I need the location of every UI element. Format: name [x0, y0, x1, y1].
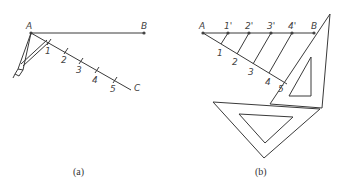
point-b — [142, 31, 145, 34]
set-square-45-icon — [213, 102, 320, 158]
label-2: 2 — [61, 55, 67, 65]
caption-b: (b) — [255, 166, 267, 178]
label-a: A — [25, 21, 32, 31]
panel-b: A 1' 2' 3' 4' B 1 2 3 4 5 (b) — [198, 14, 330, 178]
label-b: B — [311, 21, 317, 31]
label-1: 1 — [217, 48, 223, 58]
caption-a: (a) — [73, 166, 84, 178]
parallel-lines — [221, 33, 292, 73]
label-c: C — [134, 83, 141, 93]
label-5: 5 — [110, 84, 116, 94]
label-5: 5 — [278, 84, 284, 94]
diagram-canvas: A B C 1 2 3 4 5 (a) — [0, 0, 339, 191]
label-4-prime: 4' — [288, 21, 296, 31]
label-b: B — [141, 21, 147, 31]
label-3: 3 — [248, 67, 254, 77]
label-1-prime: 1' — [224, 21, 232, 31]
panel-a: A B C 1 2 3 4 5 (a) — [13, 21, 147, 178]
label-1: 1 — [45, 46, 51, 56]
label-2: 2 — [232, 57, 238, 67]
label-4: 4 — [92, 75, 98, 85]
label-3: 3 — [76, 65, 82, 75]
label-2-prime: 2' — [245, 21, 253, 31]
label-a: A — [198, 21, 205, 31]
label-4: 4 — [265, 77, 271, 87]
label-3-prime: 3' — [267, 21, 275, 31]
